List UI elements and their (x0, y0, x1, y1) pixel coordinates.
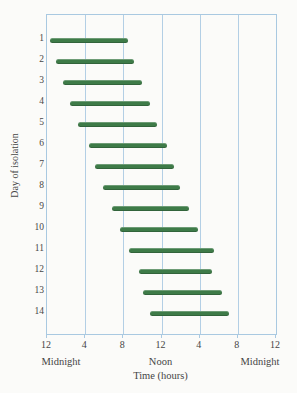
sleep-bar-day-4 (70, 101, 150, 106)
day-label-10: 10 (18, 222, 44, 233)
x-tick-label-12: 12 (146, 339, 176, 350)
sleep-bar-day-13 (143, 290, 221, 295)
sleep-bar-day-12 (139, 269, 212, 274)
x-axis-title: Time (hours) (46, 370, 275, 381)
x-tick-mark-0 (46, 334, 47, 338)
x-tick-label-16: 4 (184, 339, 214, 350)
sleep-bar-day-7 (95, 164, 174, 169)
isolation-sleep-chart: Day of isolation Time (hours) 1234567891… (0, 0, 297, 393)
day-label-14: 14 (18, 306, 44, 317)
gridline-hour-12 (162, 15, 163, 334)
day-label-9: 9 (18, 201, 44, 212)
x-tick-label-4: 4 (69, 339, 99, 350)
x-tick-label-0: 12 (31, 339, 61, 350)
day-label-3: 3 (18, 75, 44, 86)
x-tick-mark-24 (275, 334, 276, 338)
day-label-4: 4 (18, 96, 44, 107)
sleep-bar-day-11 (129, 248, 214, 253)
day-label-12: 12 (18, 264, 44, 275)
day-label-7: 7 (18, 159, 44, 170)
day-label-6: 6 (18, 138, 44, 149)
x-sublabel-noon-12: Noon (131, 356, 191, 367)
gridline-hour-16 (200, 15, 201, 334)
day-label-1: 1 (18, 33, 44, 44)
sleep-bar-day-6 (89, 143, 167, 148)
day-label-11: 11 (18, 243, 44, 254)
x-sublabel-midnight-0: Midnight (31, 356, 91, 367)
x-tick-label-20: 8 (222, 339, 252, 350)
x-sublabel-midnight-24: Midnight (230, 356, 290, 367)
day-label-2: 2 (18, 54, 44, 65)
x-tick-mark-20 (237, 334, 238, 338)
sleep-bar-day-5 (78, 122, 157, 127)
day-label-13: 13 (18, 285, 44, 296)
x-tick-mark-4 (84, 334, 85, 338)
sleep-bar-day-14 (150, 311, 229, 316)
sleep-bar-day-3 (63, 80, 142, 85)
x-tick-mark-16 (199, 334, 200, 338)
x-tick-label-8: 8 (107, 339, 137, 350)
x-tick-mark-12 (161, 334, 162, 338)
gridline-hour-20 (238, 15, 239, 334)
day-label-8: 8 (18, 180, 44, 191)
sleep-bar-day-2 (56, 59, 134, 64)
sleep-bar-day-8 (103, 185, 179, 190)
plot-area (46, 14, 277, 335)
sleep-bar-day-10 (120, 227, 198, 232)
sleep-bar-day-1 (50, 38, 128, 43)
sleep-bar-day-9 (112, 206, 189, 211)
day-label-5: 5 (18, 117, 44, 128)
x-tick-label-24: 12 (260, 339, 290, 350)
x-tick-mark-8 (122, 334, 123, 338)
